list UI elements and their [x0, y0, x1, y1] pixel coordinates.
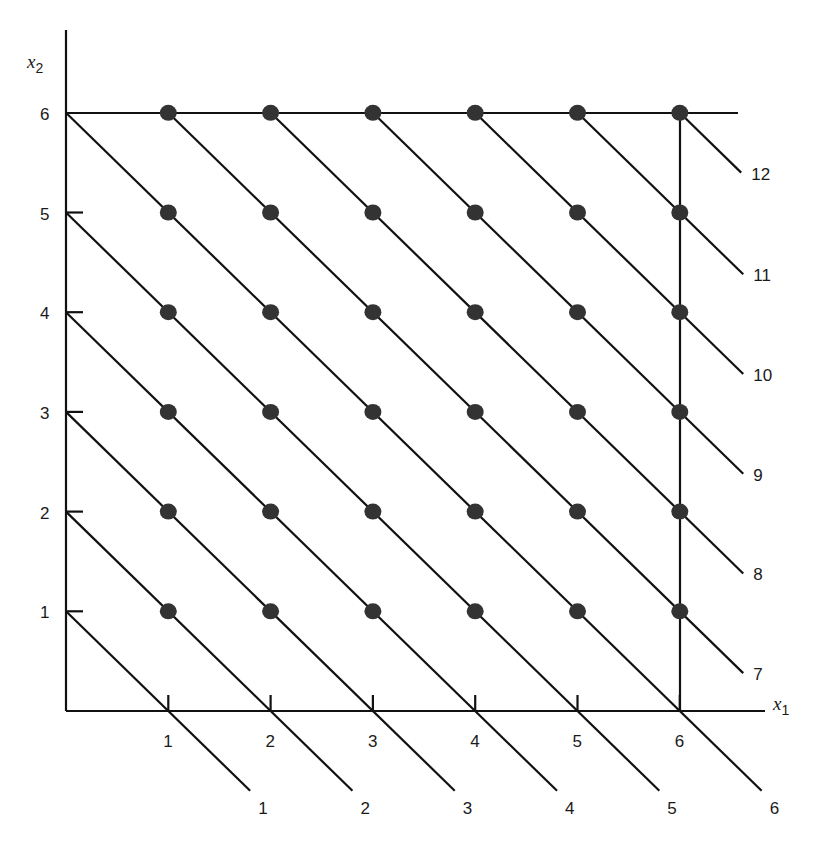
lattice-point — [262, 105, 279, 121]
lattice-point — [671, 205, 688, 221]
lattice-point — [160, 603, 177, 619]
lattice-point — [671, 504, 688, 520]
lattice-point — [262, 205, 279, 221]
lattice-point — [671, 404, 688, 420]
level-line-label-11: 11 — [753, 266, 771, 285]
tick-marks — [66, 213, 680, 712]
lattice-point — [160, 404, 177, 420]
level-line-9 — [373, 113, 743, 474]
level-line-8 — [271, 113, 744, 574]
lattice-point — [160, 105, 177, 121]
lattice-level-lines-chart: 123456123456 123456789101112 x2 x1 — [0, 0, 822, 845]
level-line-2 — [66, 512, 352, 791]
level-line-12 — [680, 113, 741, 173]
level-line-label-9: 9 — [753, 466, 762, 485]
level-line-7 — [168, 113, 743, 673]
x-tick-label: 2 — [266, 732, 275, 751]
lattice-point — [262, 504, 279, 520]
y-tick-label: 4 — [40, 304, 49, 323]
cropped-caption — [0, 838, 450, 845]
level-line-labels: 123456789101112 — [258, 165, 779, 818]
y-tick-label: 1 — [40, 603, 49, 622]
lattice-point — [671, 105, 688, 121]
level-line-label-7: 7 — [753, 665, 762, 684]
x-tick-label: 1 — [163, 732, 172, 751]
level-line-label-10: 10 — [753, 366, 772, 385]
lattice-point — [262, 404, 279, 420]
level-line-5 — [66, 213, 659, 791]
x-tick-label: 5 — [573, 732, 582, 751]
x1-axis-label: x1 — [772, 693, 789, 718]
x2-axis-label: x2 — [26, 51, 43, 76]
level-line-3 — [66, 412, 455, 791]
lattice-point — [569, 105, 586, 121]
level-line-label-8: 8 — [753, 565, 762, 584]
lattice-point — [467, 603, 484, 619]
level-line-label-6: 6 — [770, 799, 779, 818]
lattice-point — [364, 504, 381, 520]
y-tick-label: 2 — [40, 504, 49, 523]
y-tick-label: 5 — [40, 205, 49, 224]
lattice-point — [569, 205, 586, 221]
lattice-point — [467, 504, 484, 520]
level-line-10 — [475, 113, 743, 374]
level-line-4 — [66, 312, 557, 791]
lattice-point — [364, 105, 381, 121]
lattice-point — [160, 304, 177, 320]
lattice-point — [671, 304, 688, 320]
x-tick-label: 6 — [675, 732, 684, 751]
x-tick-label: 3 — [368, 732, 377, 751]
x-tick-label: 4 — [470, 732, 479, 751]
level-line-label-2: 2 — [360, 799, 369, 818]
lattice-point — [467, 205, 484, 221]
lattice-point — [569, 603, 586, 619]
lattice-point — [364, 404, 381, 420]
level-line-label-12: 12 — [751, 165, 770, 184]
level-line-1 — [66, 611, 250, 790]
lattice-point — [160, 504, 177, 520]
level-line-label-1: 1 — [258, 799, 267, 818]
lattice-point — [569, 404, 586, 420]
lattice-point — [569, 304, 586, 320]
lattice-point — [671, 603, 688, 619]
lattice-point — [160, 205, 177, 221]
lattice-point — [262, 603, 279, 619]
lattice-point — [569, 504, 586, 520]
lattice-point — [262, 304, 279, 320]
level-line-label-5: 5 — [667, 799, 676, 818]
y-tick-label: 6 — [40, 105, 49, 124]
lattice-point — [467, 304, 484, 320]
lattice-point — [364, 603, 381, 619]
lattice-point — [364, 304, 381, 320]
y-tick-label: 3 — [40, 404, 49, 423]
lattice-point — [364, 205, 381, 221]
lattice-point — [467, 105, 484, 121]
level-line-label-4: 4 — [565, 799, 574, 818]
level-line-11 — [578, 113, 744, 275]
lattice-point — [467, 404, 484, 420]
level-line-label-3: 3 — [463, 799, 472, 818]
